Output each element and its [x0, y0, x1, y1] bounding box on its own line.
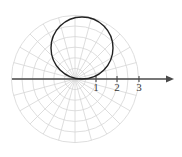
axis-tick-label-1: 1 — [93, 81, 99, 93]
axis-tick-labels: 123 — [93, 81, 142, 93]
polar-plot-canvas: 123 — [0, 0, 182, 157]
axis-tick-label-2: 2 — [114, 81, 120, 93]
axis-arrowhead — [166, 75, 174, 82]
axis-tick-label-3: 3 — [136, 81, 142, 93]
polar-plot-figure: 123 — [0, 0, 182, 157]
